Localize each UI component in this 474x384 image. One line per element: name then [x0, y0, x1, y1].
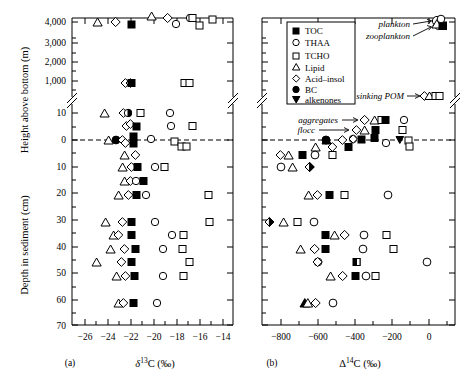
panel-a-xtick-5: −16	[193, 332, 208, 342]
panel-a-ytick-lower-1: 10	[57, 162, 67, 172]
panel-a-ytick-lower-7: 70	[57, 321, 67, 331]
panel-a-xtick-6: −14	[216, 332, 231, 342]
annotation-flocc: flocc	[298, 125, 316, 135]
legend-label-2: TCHO	[305, 51, 330, 61]
panel-a-xtick-4: −18	[170, 332, 185, 342]
panel-a-label: (a)	[65, 358, 76, 369]
figure-container: 4,000 3,000 2,000 1,000 10 0 10 20 30 40…	[0, 0, 474, 384]
annotation-arrow-aggregates	[342, 118, 358, 123]
legend-label-4: Acid–insol	[305, 74, 345, 84]
panel-a-ytick-upper-0: 4,000	[45, 17, 67, 27]
annotation-arrow-flocc	[319, 128, 349, 133]
panel-b-plankton-cluster	[432, 15, 447, 30]
panel-a-axis-break	[67, 93, 238, 108]
panel-a-ytick-upper-4: 10	[57, 108, 67, 118]
panel-a-ytick-upper-1: 3,000	[45, 38, 67, 48]
annotation-zooplankton: zooplankton	[365, 31, 410, 41]
panel-a-yticks-upper	[72, 22, 78, 90]
panel-b-yticks-right	[449, 22, 455, 325]
panel-b-xtick-1: −600	[308, 332, 328, 342]
yaxis-label-lower: Depth in sediment (cm)	[19, 195, 31, 295]
panel-a-yticks-lower	[72, 113, 78, 325]
panel-a-datapoints	[92, 12, 216, 307]
panel-b-aggregates-cluster	[360, 115, 408, 124]
annotation-arrow-sinking-pom	[407, 94, 420, 99]
panel-b-label: (b)	[266, 358, 277, 369]
scatter-figure: 4,000 3,000 2,000 1,000 10 0 10 20 30 40…	[0, 0, 474, 384]
panel-b-xtick-3: −200	[382, 332, 402, 342]
panel-b-xtick-4: 0	[427, 332, 432, 342]
panel-a-ytick-upper-2: 2,000	[45, 57, 67, 67]
panel-a-ytick-lower-2: 20	[57, 188, 67, 198]
panel-a-ytick-lower-6: 60	[57, 295, 67, 305]
panel-a-xtick-3: −20	[147, 332, 162, 342]
panel-a-xtick-0: −26	[78, 332, 93, 342]
panel-a-xtick-2: −22	[124, 332, 139, 342]
panel-b-flocc-cluster	[352, 126, 406, 135]
panel-b-xaxis-label: Δ14C (‰)	[339, 356, 381, 370]
panel-a-ytick-upper-3: 1,000	[45, 76, 67, 86]
panel-b-yticks-left	[262, 22, 268, 325]
panel-a-xticks	[85, 18, 223, 325]
panel-a-frame	[72, 18, 233, 325]
panel-a-yticks-right	[227, 22, 233, 325]
yaxis-label-upper: Height above bottom (m)	[19, 46, 31, 153]
legend-label-3: Lipid	[305, 63, 325, 73]
panel-a-ytick-lower-3: 30	[57, 215, 67, 225]
panel-b-datapoints	[265, 135, 431, 308]
legend-label-1: THAA	[305, 38, 330, 48]
panel-a-xtick-1: −24	[101, 332, 116, 342]
panel-b-xtick-2: −400	[345, 332, 365, 342]
legend-label-6: alkenones	[305, 95, 341, 105]
legend-label-5: BC	[305, 85, 317, 95]
panel-b-sinking-pom-cluster	[420, 92, 443, 101]
panel-a-ytick-upper-5: 0	[61, 135, 66, 145]
panel-a-ytick-lower-4: 40	[57, 242, 67, 252]
annotation-sinking-pom: sinking POM	[356, 91, 404, 101]
panel-a-xaxis-label: δ13C (‰)	[135, 356, 175, 370]
annotation-plankton: plankton	[378, 19, 411, 29]
annotation-aggregates: aggregates	[298, 115, 338, 125]
legend-label-0: TOC	[305, 26, 323, 36]
panel-b-xtick-0: −800	[271, 332, 291, 342]
panel-a-ytick-lower-5: 50	[57, 268, 67, 278]
